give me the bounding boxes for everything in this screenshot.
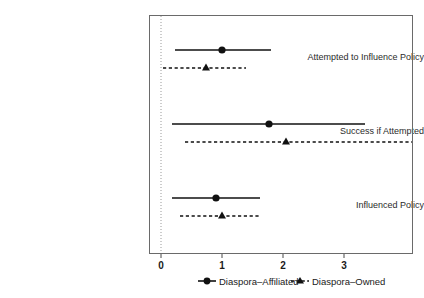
point-marker-owned-attempted — [202, 64, 210, 71]
x-tick-label-3: 3 — [336, 260, 352, 271]
x-tick-label-0: 0 — [153, 260, 169, 271]
point-marker-owned-influenced — [218, 212, 226, 219]
legend-label-diaspora-owned: Diaspora–Owned — [312, 276, 385, 287]
plot-frame — [150, 16, 413, 254]
estimate-group-influenced-policy — [172, 194, 260, 218]
plot-area — [0, 0, 424, 298]
point-marker-affiliated-attempted — [218, 46, 225, 53]
estimate-group-attempted-to-influence-policy — [163, 46, 271, 70]
legend-label-diaspora-affiliated: Diaspora–Affiliated — [219, 276, 299, 287]
estimate-group-success-if-attempted — [172, 120, 412, 144]
x-axis-ticks — [161, 254, 344, 258]
x-tick-label-2: 2 — [275, 260, 291, 271]
point-marker-affiliated-success — [265, 120, 272, 127]
forest-plot-figure: Attempted to Influence Policy Success if… — [0, 0, 424, 298]
x-tick-label-1: 1 — [214, 260, 230, 271]
legend-marker-circle-icon — [204, 278, 211, 285]
point-marker-affiliated-influenced — [212, 194, 219, 201]
point-marker-owned-success — [282, 138, 290, 145]
